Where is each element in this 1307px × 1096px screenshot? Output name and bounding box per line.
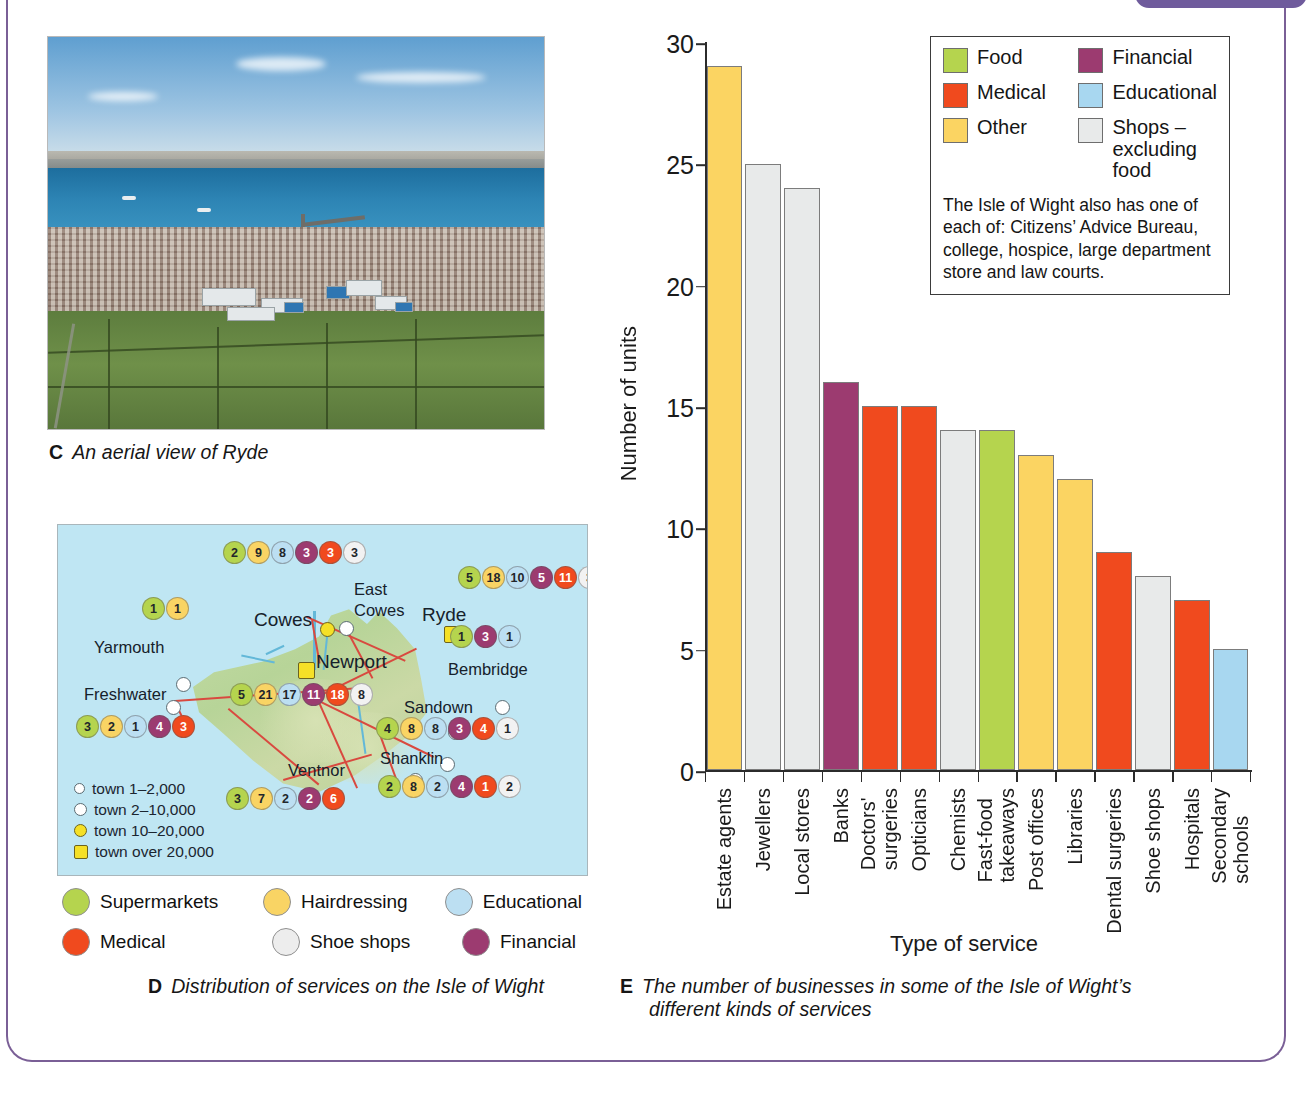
- map-label-ventnor: Ventnor: [288, 761, 345, 780]
- x-axis-tick-label-part: Secondary: [1209, 788, 1231, 884]
- town-marker-yarmouth[interactable]: [176, 677, 191, 692]
- x-axis-tick-label: Chemists: [948, 788, 970, 871]
- town-marker-east-cowes[interactable]: [339, 621, 354, 636]
- y-axis-tick-label: 25: [648, 151, 694, 180]
- photo-fields: [48, 311, 544, 429]
- x-axis-tick-label: Post offices: [1026, 788, 1048, 891]
- service-dot-medical: 18: [326, 683, 349, 706]
- x-axis-tick-label-part: Fast-food: [975, 788, 997, 883]
- map-label-freshwater: Freshwater: [84, 685, 167, 704]
- service-dot-hairdressing: 7: [250, 787, 273, 810]
- legend-item-educational: Educational: [445, 888, 582, 916]
- y-axis-tick-mark: [696, 407, 705, 409]
- x-axis-tick-label: Shoe shops: [1143, 788, 1165, 894]
- town-marker-freshwater[interactable]: [166, 700, 181, 715]
- town-marker-cowes[interactable]: [320, 622, 335, 637]
- service-dot-educational: 17: [278, 683, 301, 706]
- chart-legend-item-shops: Shops – excluding food: [1078, 117, 1217, 182]
- service-cluster-sandown: 488341: [376, 717, 519, 740]
- educational-swatch-icon: [445, 888, 473, 916]
- medical-swatch-icon: [62, 928, 90, 956]
- x-axis-label: Type of service: [890, 931, 1038, 957]
- x-axis-tick-mark: [900, 772, 901, 782]
- x-axis-tick-label: Doctors'surgeries: [858, 788, 901, 870]
- service-dot-financial: 3: [474, 625, 497, 648]
- bar-shoe-shops: [1135, 576, 1171, 770]
- map-label-ryde: Ryde: [422, 604, 466, 626]
- service-dot-financial: 4: [450, 775, 473, 798]
- town-marker-bembridge[interactable]: [495, 700, 510, 715]
- x-axis-tick-mark: [1211, 772, 1212, 782]
- town-key-row: town 10–20,000: [74, 820, 214, 841]
- service-dot-hairdressing: 9: [247, 541, 270, 564]
- field-boundary: [217, 327, 219, 429]
- cloud-shape: [88, 92, 158, 101]
- large-open-circle-icon: [74, 803, 87, 816]
- y-axis-tick-label: 15: [648, 394, 694, 423]
- food-swatch-icon: [943, 48, 968, 73]
- x-axis-tick-label-part: schools: [1230, 788, 1252, 884]
- cloud-shape: [236, 57, 326, 71]
- figure-c-caption: CAn aerial view of Ryde: [49, 441, 268, 464]
- yellow-square-icon: [74, 845, 88, 859]
- x-axis-tick-label: Secondaryschools: [1209, 788, 1252, 884]
- bar-local-stores: [784, 188, 820, 770]
- bar-banks: [823, 382, 859, 770]
- service-dot-supermarkets: 1: [450, 625, 473, 648]
- y-axis-tick-label: 5: [648, 636, 694, 665]
- service-dot-medical: 6: [322, 787, 345, 810]
- legend-label: Educational: [483, 891, 582, 913]
- industrial-building: [346, 280, 382, 296]
- service-cluster-newport: 5211711188: [230, 683, 373, 706]
- photo-far-shoreline: [48, 151, 544, 169]
- bar-dental-surgeries: [1096, 552, 1132, 770]
- aerial-photo-ryde: [47, 36, 545, 430]
- y-axis-tick-mark: [696, 165, 705, 167]
- y-axis-tick-mark: [696, 771, 705, 773]
- small-open-circle-icon: [74, 783, 85, 794]
- map-label-shanklin: Shanklin: [380, 749, 443, 768]
- service-cluster-cowes: 298333: [223, 541, 366, 564]
- service-dot-medical: 11: [554, 566, 577, 589]
- chart-legend-item-financial: Financial: [1078, 47, 1217, 73]
- x-axis-tick-mark: [1094, 772, 1095, 782]
- industrial-building: [395, 302, 413, 312]
- town-marker-newport[interactable]: [298, 662, 315, 679]
- bar-fast-food-takeaways: [979, 430, 1015, 770]
- legend-label: Hairdressing: [301, 891, 408, 913]
- service-dot-shoe-shops: 3: [578, 566, 588, 589]
- chart-legend-label: Medical: [977, 82, 1046, 104]
- creek-shape: [266, 645, 285, 655]
- yellow-circle-icon: [74, 824, 87, 837]
- service-dot-shoe-shops: 8: [350, 683, 373, 706]
- service-dot-supermarkets: 3: [226, 787, 249, 810]
- medical-swatch-icon: [943, 83, 968, 108]
- ferry-shape: [197, 208, 211, 212]
- service-dot-hairdressing: 8: [400, 717, 423, 740]
- service-dot-hairdressing: 21: [254, 683, 277, 706]
- legend-item-financial: Financial: [462, 928, 576, 956]
- map-label-sandown: Sandown: [404, 698, 473, 717]
- x-axis-tick-label: Fast-foodtakeaways: [975, 788, 1018, 883]
- chart-legend-box: Food Financial Medical Educational Other…: [930, 36, 1230, 295]
- map-label-east-cowes-line1: East: [354, 580, 387, 599]
- legend-item-supermarkets: Supermarkets: [62, 888, 263, 916]
- service-dot-supermarkets: 5: [230, 683, 253, 706]
- service-cluster-freshwater: 32143: [76, 715, 195, 738]
- x-axis-tick-mark: [1250, 772, 1251, 782]
- town-key-label: town over 20,000: [95, 843, 214, 861]
- bar-post-offices: [1018, 455, 1054, 770]
- map-label-east-cowes-line2: Cowes: [354, 601, 404, 620]
- bar-hospitals: [1174, 600, 1210, 770]
- bar-estate-agents: [707, 66, 743, 770]
- isle-of-wight-map: Cowes East Cowes Yarmouth Freshwater New…: [57, 524, 588, 876]
- service-dot-hairdressing: 2: [100, 715, 123, 738]
- legend-label: Medical: [100, 931, 165, 953]
- x-axis-tick-mark: [744, 772, 745, 782]
- legend-row: Supermarkets Hairdressing Educational: [62, 882, 582, 922]
- service-dot-educational: 1: [124, 715, 147, 738]
- financial-swatch-icon: [1078, 48, 1103, 73]
- legend-label: Financial: [500, 931, 576, 953]
- town-key-row: town over 20,000: [74, 841, 214, 862]
- service-dot-financial: 11: [302, 683, 325, 706]
